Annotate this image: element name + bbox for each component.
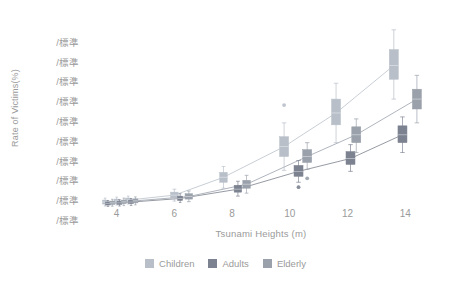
y-tick-label: /標準 <box>56 134 79 148</box>
outlier-point <box>282 103 286 107</box>
box <box>389 50 398 80</box>
y-axis-title-text: Rate of Victims(%) <box>10 69 20 147</box>
box <box>303 150 312 163</box>
legend-item-adults[interactable]: Adults <box>208 258 248 269</box>
y-tick-label: /標準 <box>56 193 79 207</box>
series-boxes-children <box>103 30 399 206</box>
x-tick-label: 4 <box>114 208 120 219</box>
x-tick-label: 8 <box>229 208 235 219</box>
x-tick-label: 6 <box>172 208 178 219</box>
chart-container: Rate of Victims(%) /標準/標準/標準/標準/標準/標準/標準… <box>0 0 451 294</box>
x-tick-label: 10 <box>284 208 295 219</box>
plot-area <box>82 10 440 208</box>
chart-legend: ChildrenAdultsElderly <box>0 258 451 269</box>
outlier-point <box>305 176 309 180</box>
box <box>346 152 355 165</box>
legend-label: Children <box>159 258 194 269</box>
series-line-elderly <box>112 99 417 203</box>
x-axis-title: Tsunami Heights (m) <box>82 228 440 239</box>
x-axis-tick-labels: 468101214 <box>82 208 440 226</box>
outlier-point <box>297 185 301 189</box>
legend-swatch-icon <box>208 259 217 268</box>
y-axis-title: Rate of Victims(%) <box>0 0 30 215</box>
series-line-adults <box>108 135 402 204</box>
legend-label: Elderly <box>277 258 306 269</box>
legend-label: Adults <box>222 258 248 269</box>
box <box>234 185 242 192</box>
y-tick-label: /標準 <box>56 114 79 128</box>
y-axis-tick-labels: /標準/標準/標準/標準/標準/標準/標準/標準/標準/標準 <box>30 12 82 207</box>
y-tick-label: /標準 <box>56 94 79 108</box>
box <box>332 99 341 125</box>
y-tick-label: /標準 <box>56 173 79 187</box>
box <box>294 165 303 176</box>
y-tick-label: /標準 <box>56 74 79 88</box>
x-tick-label: 14 <box>400 208 411 219</box>
series-boxes-elderly <box>110 75 422 206</box>
series-boxes-adults <box>105 117 406 206</box>
y-tick-label: /標準 <box>56 213 79 227</box>
legend-item-elderly[interactable]: Elderly <box>263 258 306 269</box>
box <box>398 126 407 143</box>
y-tick-label: /標準 <box>56 154 79 168</box>
x-tick-label: 12 <box>342 208 353 219</box>
legend-swatch-icon <box>145 259 154 268</box>
y-tick-label: /標準 <box>56 55 79 69</box>
plot-svg <box>82 10 440 208</box>
y-tick-label: /標準 <box>56 35 79 49</box>
legend-swatch-icon <box>263 259 272 268</box>
legend-item-children[interactable]: Children <box>145 258 194 269</box>
